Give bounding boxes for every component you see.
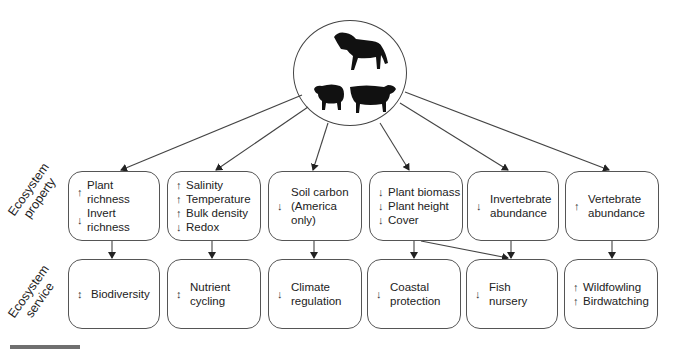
service-line: nursery bbox=[489, 294, 527, 308]
up-arrow-icon: ↑ bbox=[77, 185, 87, 199]
up-arrow-icon: ↑ bbox=[176, 206, 186, 220]
property-line: (America only) bbox=[291, 199, 361, 227]
property-line: abundance bbox=[490, 206, 551, 220]
up-arrow-icon: ↑ bbox=[176, 192, 186, 206]
down-arrow-icon: ↓ bbox=[277, 199, 287, 213]
down-arrow-icon: ↓ bbox=[475, 287, 485, 301]
property-item: Invert richness bbox=[87, 206, 159, 234]
up-arrow-icon: ↑ bbox=[573, 294, 583, 308]
up-arrow-icon: ↑ bbox=[573, 280, 583, 294]
service-box-recreation: ↑Wildfowling ↑Birdwatching bbox=[564, 259, 658, 329]
service-box-climate-regulation: ↓ Climateregulation bbox=[268, 259, 362, 329]
service-box-coastal-protection: ↓ Coastalprotection bbox=[367, 259, 461, 329]
herbivore-circle bbox=[293, 20, 407, 126]
service-line: Climate bbox=[291, 280, 342, 294]
service-line: Biodiversity bbox=[91, 287, 150, 301]
down-arrow-icon: ↓ bbox=[476, 199, 486, 213]
service-line: Nutrient bbox=[190, 280, 230, 294]
property-box-invertebrates: ↓ Invertebrateabundance bbox=[467, 171, 559, 241]
down-arrow-icon: ↓ bbox=[77, 213, 87, 227]
figure-marker-bar bbox=[10, 345, 80, 349]
property-item: Cover bbox=[388, 213, 419, 227]
service-line: cycling bbox=[190, 294, 230, 308]
service-line: regulation bbox=[291, 294, 342, 308]
property-item: Redox bbox=[186, 220, 219, 234]
sheep-icon bbox=[314, 85, 344, 111]
updown-arrow-icon: ↕ bbox=[176, 287, 186, 301]
property-item: Plant biomass bbox=[388, 185, 460, 199]
property-line: Soil carbon bbox=[291, 185, 361, 199]
updown-arrow-icon: ↕ bbox=[77, 287, 87, 301]
property-box-soil-physics: ↑Salinity ↑Temperature ↑Bulk density ↓Re… bbox=[167, 171, 261, 241]
service-item: Birdwatching bbox=[583, 294, 649, 308]
property-item: Salinity bbox=[186, 178, 223, 192]
service-box-fish-nursery: ↓ Fishnursery bbox=[466, 259, 558, 329]
property-box-soil-carbon: ↓ Soil carbon(America only) bbox=[268, 171, 362, 241]
property-item: Plant richness bbox=[87, 178, 159, 206]
service-box-biodiversity: ↕ Biodiversity bbox=[68, 259, 160, 329]
up-arrow-icon: ↑ bbox=[176, 178, 186, 192]
cow-icon bbox=[350, 85, 396, 113]
property-box-vegetation: ↓Plant biomass ↓Plant height ↓Cover bbox=[369, 171, 463, 241]
property-box-vertebrates: ↑ Vertebrateabundance bbox=[565, 171, 659, 241]
property-item: Bulk density bbox=[186, 206, 248, 220]
property-line: Invertebrate bbox=[490, 192, 551, 206]
up-arrow-icon: ↑ bbox=[574, 199, 584, 213]
service-line: Coastal bbox=[390, 280, 441, 294]
property-box-richness: ↑Plant richness ↓Invert richness bbox=[68, 171, 160, 241]
property-item: Temperature bbox=[186, 192, 251, 206]
down-arrow-icon: ↓ bbox=[378, 199, 388, 213]
service-line: Fish bbox=[489, 280, 527, 294]
down-arrow-icon: ↓ bbox=[378, 185, 388, 199]
service-item: Wildfowling bbox=[583, 280, 641, 294]
down-arrow-icon: ↓ bbox=[378, 213, 388, 227]
down-arrow-icon: ↓ bbox=[277, 287, 287, 301]
service-line: protection bbox=[390, 294, 441, 308]
property-item: Plant height bbox=[388, 199, 449, 213]
down-arrow-icon: ↓ bbox=[376, 287, 386, 301]
property-line: Vertebrate bbox=[588, 192, 645, 206]
property-line: abundance bbox=[588, 206, 645, 220]
service-box-nutrient-cycling: ↕ Nutrientcycling bbox=[167, 259, 261, 329]
down-arrow-icon: ↓ bbox=[176, 220, 186, 234]
horse-icon bbox=[334, 33, 388, 71]
